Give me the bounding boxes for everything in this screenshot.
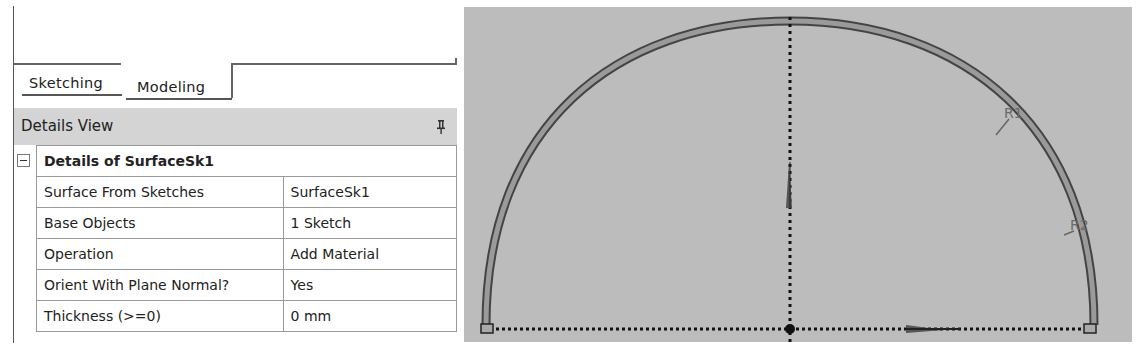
table-row[interactable]: Surface From Sketches SurfaceSk1 — [37, 177, 457, 208]
sketch-canvas — [464, 7, 1132, 342]
property-name: Base Objects — [37, 208, 284, 239]
tab-strip-line — [237, 63, 457, 65]
tab-strip-line — [14, 63, 121, 65]
dimension-label-r1[interactable]: R1 — [1004, 105, 1023, 121]
pin-icon[interactable] — [435, 119, 447, 135]
property-value[interactable]: Yes — [283, 270, 456, 301]
property-value[interactable]: Add Material — [283, 239, 456, 270]
origin-point — [785, 324, 795, 334]
property-value[interactable]: 0 mm — [283, 301, 456, 332]
left-panel: Sketching Modeling Details View Details … — [0, 0, 458, 348]
tab-modeling-edge — [231, 63, 233, 98]
endpoint-marker-right — [1084, 324, 1096, 333]
panel-border — [13, 6, 14, 343]
details-view-header: Details View — [14, 108, 457, 145]
property-value[interactable]: 1 Sketch — [283, 208, 456, 239]
table-row[interactable]: Orient With Plane Normal? Yes — [37, 270, 457, 301]
property-name: Thickness (>=0) — [37, 301, 284, 332]
graphics-viewport[interactable]: R1 R2 — [464, 7, 1132, 342]
details-view-title: Details View — [21, 117, 113, 135]
tab-sketching[interactable]: Sketching — [29, 75, 103, 91]
endpoint-marker-left — [481, 324, 493, 333]
tab-modeling[interactable]: Modeling — [137, 79, 205, 95]
table-row[interactable]: Operation Add Material — [37, 239, 457, 270]
details-table: Details of SurfaceSk1 Surface From Sketc… — [36, 145, 457, 332]
property-name: Operation — [37, 239, 284, 270]
group-header-row[interactable]: Details of SurfaceSk1 — [37, 146, 457, 177]
tab-modeling-edge — [231, 63, 239, 65]
r1-leader — [996, 119, 1009, 135]
group-label: Details of SurfaceSk1 — [37, 146, 457, 177]
table-row[interactable]: Thickness (>=0) 0 mm — [37, 301, 457, 332]
collapse-minus-box-icon[interactable] — [17, 154, 30, 167]
property-value[interactable]: SurfaceSk1 — [283, 177, 456, 208]
tab-sketching-underline — [22, 94, 122, 96]
tab-modeling-underline — [126, 98, 232, 100]
table-row[interactable]: Base Objects 1 Sketch — [37, 208, 457, 239]
dimension-label-r2[interactable]: R2 — [1070, 217, 1089, 233]
property-name: Surface From Sketches — [37, 177, 284, 208]
tab-strip-corner — [455, 58, 457, 65]
property-name: Orient With Plane Normal? — [37, 270, 284, 301]
